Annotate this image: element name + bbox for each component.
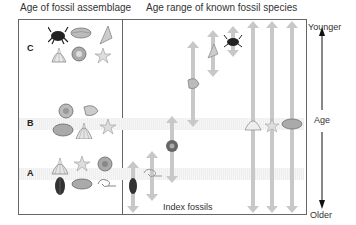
- range-arrow-cone-snail: [207, 30, 219, 77]
- range-arrow-ammonite: [166, 116, 178, 183]
- range-arrow-scallop: [245, 21, 261, 213]
- index-fossils-label: Index fossils: [163, 202, 213, 212]
- axis-label-younger: Younger: [308, 22, 341, 32]
- species-range-arrows: [0, 0, 356, 225]
- axis-label-older: Older: [310, 210, 332, 220]
- range-arrow-clam: [282, 21, 302, 213]
- range-arrow-starfish: [265, 21, 279, 213]
- range-arrow-snail: [187, 41, 199, 127]
- range-arrow-crab: [224, 26, 242, 57]
- axis-label-age: Age: [314, 115, 330, 125]
- range-arrow-trilobite: [127, 161, 139, 213]
- range-arrow-coiled-worm: [144, 151, 162, 201]
